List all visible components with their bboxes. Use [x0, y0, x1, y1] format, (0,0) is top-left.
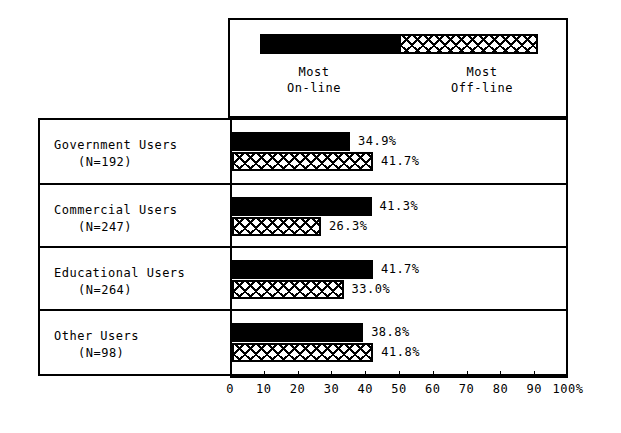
x-axis-tick-label: 40	[357, 382, 372, 397]
x-axis-tick-label: 100%	[553, 382, 584, 397]
category-label: Government Users (N=192)	[54, 137, 226, 171]
legend-label-online-line2: On-line	[287, 81, 341, 95]
category-name: Other Users	[54, 329, 139, 343]
x-axis-tick	[399, 371, 400, 376]
x-axis-tick	[500, 371, 501, 376]
x-axis-tick	[467, 371, 468, 376]
row-bars: 34.9% 41.7%	[232, 132, 566, 171]
table-row: Commercial Users (N=247) 41.3% 26.3%	[40, 183, 566, 246]
x-axis-line	[230, 376, 568, 378]
row-plot-area: 34.9% 41.7%	[232, 120, 566, 183]
x-axis-tick	[365, 371, 366, 376]
bar-online-value: 41.7%	[381, 262, 420, 277]
bar-online	[232, 323, 363, 342]
legend-labels: Most On-line Most Off-line	[230, 64, 566, 96]
bar-offline-value: 41.7%	[381, 154, 420, 169]
legend-label-online: Most On-line	[230, 64, 398, 96]
bar-offline-wrap: 41.7%	[232, 152, 566, 171]
legend-box: Most On-line Most Off-line	[228, 18, 568, 118]
bar-online-value: 41.3%	[380, 199, 419, 214]
chart-frame: Government Users (N=192) 34.9% 41.7%	[38, 118, 568, 376]
bar-online-wrap: 34.9%	[232, 132, 566, 151]
x-axis-tick-label: 0	[226, 382, 234, 397]
bar-offline-wrap: 33.0%	[232, 280, 566, 299]
table-row: Government Users (N=192) 34.9% 41.7%	[40, 120, 566, 183]
bar-offline-wrap: 26.3%	[232, 217, 566, 236]
bar-online-wrap: 41.3%	[232, 197, 566, 216]
bar-online	[232, 260, 373, 279]
chart-canvas: Most On-line Most Off-line Government Us…	[0, 0, 621, 433]
row-bars: 41.3% 26.3%	[232, 197, 566, 236]
category-label: Commercial Users (N=247)	[54, 202, 226, 236]
category-sample-size: (N=192)	[54, 154, 226, 171]
legend-label-offline-line1: Most	[467, 65, 498, 79]
legend-bar	[260, 34, 538, 54]
row-plot-area: 41.3% 26.3%	[232, 185, 566, 246]
bar-online-wrap: 38.8%	[232, 323, 566, 342]
legend-label-online-line1: Most	[299, 65, 330, 79]
row-plot-area: 38.8% 41.8%	[232, 311, 566, 372]
x-axis: 0102030405060708090100%	[230, 376, 568, 416]
x-axis-tick-label: 50	[391, 382, 406, 397]
x-axis-tick-label: 90	[526, 382, 541, 397]
category-sample-size: (N=98)	[54, 345, 226, 362]
x-axis-tick	[534, 371, 535, 376]
row-plot-area: 41.7% 33.0%	[232, 248, 566, 309]
table-row: Educational Users (N=264) 41.7% 33.0%	[40, 246, 566, 309]
x-axis-tick-label: 10	[256, 382, 271, 397]
legend-label-offline: Most Off-line	[398, 64, 566, 96]
x-axis-tick	[298, 371, 299, 376]
bar-offline	[232, 343, 373, 362]
x-axis-tick-label: 30	[324, 382, 339, 397]
bar-offline-wrap: 41.8%	[232, 343, 566, 362]
category-label: Other Users (N=98)	[54, 328, 226, 362]
bar-online	[232, 132, 350, 151]
bar-online	[232, 197, 372, 216]
table-row: Other Users (N=98) 38.8% 41.8%	[40, 309, 566, 372]
x-axis-tick	[264, 371, 265, 376]
bar-online-value: 38.8%	[371, 325, 410, 340]
row-bars: 38.8% 41.8%	[232, 323, 566, 362]
category-name: Educational Users	[54, 266, 185, 280]
bar-offline	[232, 152, 373, 171]
x-axis-tick-label: 20	[290, 382, 305, 397]
legend-swatch-offline	[399, 34, 538, 54]
bar-online-wrap: 41.7%	[232, 260, 566, 279]
category-sample-size: (N=247)	[54, 219, 226, 236]
category-sample-size: (N=264)	[54, 282, 226, 299]
row-bars: 41.7% 33.0%	[232, 260, 566, 299]
x-axis-tick-label: 70	[459, 382, 474, 397]
bar-offline-value: 33.0%	[352, 282, 391, 297]
bar-offline-value: 26.3%	[329, 219, 368, 234]
x-axis-tick-label: 60	[425, 382, 440, 397]
bar-offline	[232, 280, 344, 299]
bar-offline	[232, 217, 321, 236]
x-axis-tick-label: 80	[493, 382, 508, 397]
legend-swatch-online	[260, 34, 399, 54]
x-axis-tick	[433, 371, 434, 376]
category-label: Educational Users (N=264)	[54, 265, 226, 299]
bar-offline-value: 41.8%	[381, 345, 420, 360]
category-name: Government Users	[54, 138, 178, 152]
legend-label-offline-line2: Off-line	[451, 81, 513, 95]
bar-online-value: 34.9%	[358, 134, 397, 149]
x-axis-tick	[331, 371, 332, 376]
category-name: Commercial Users	[54, 203, 178, 217]
